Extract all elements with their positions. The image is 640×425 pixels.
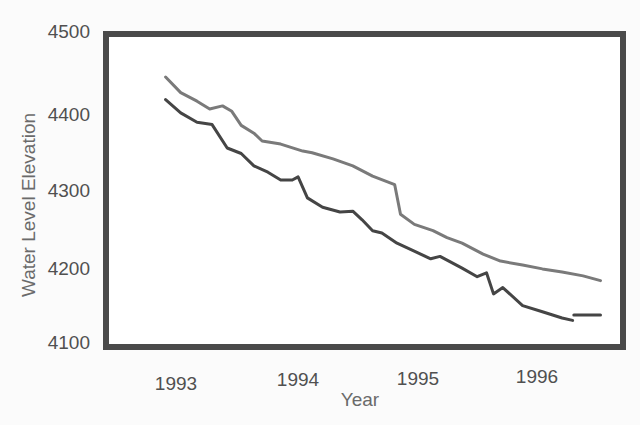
water-level-chart: 4500 4400 4300 4200 4100 1993 1994 1995 … xyxy=(0,0,640,425)
y-tick-label: 4300 xyxy=(48,180,90,201)
plot-frame xyxy=(106,34,623,347)
y-axis-title: Water Level Elevation xyxy=(18,113,39,297)
x-axis-title: Year xyxy=(341,389,380,410)
x-tick-label: 1994 xyxy=(277,369,320,390)
y-axis-ticks: 4500 4400 4300 4200 4100 xyxy=(48,21,90,353)
y-tick-label: 4100 xyxy=(48,332,90,353)
y-tick-label: 4400 xyxy=(48,104,90,125)
x-tick-label: 1993 xyxy=(155,373,197,394)
y-tick-label: 4200 xyxy=(48,258,90,279)
x-tick-label: 1995 xyxy=(397,368,439,389)
y-tick-label: 4500 xyxy=(48,21,90,42)
x-tick-label: 1996 xyxy=(516,366,558,387)
